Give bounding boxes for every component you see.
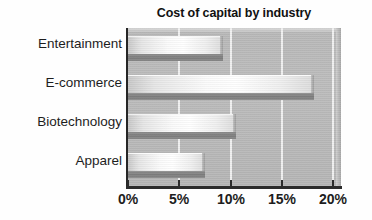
x-tick-15 [281,180,283,187]
bar-apparel [128,153,205,178]
y-axis-line [126,28,128,188]
bar-body [128,36,223,54]
x-tick-label-0: 0% [106,191,150,207]
x-tick-20 [332,180,334,187]
x-tick-5 [178,180,180,187]
bar-body [128,75,314,93]
x-tick-label-5: 5% [157,191,201,207]
gridline-20 [332,28,334,186]
gridline-15 [281,28,283,186]
bar-base [128,54,223,61]
x-axis-line [126,186,342,189]
x-tick-0 [127,180,129,187]
bar-e-commerce [128,75,314,100]
category-label-entertainment: Entertainment [2,36,122,51]
bar-base [128,93,314,100]
bar-entertainment [128,36,223,61]
bar-base [128,132,236,139]
category-label-biotechnology: Biotechnology [2,114,122,129]
plot-top-edge [127,28,341,32]
x-tick-label-10: 10% [209,191,253,207]
gridline-10 [230,28,232,186]
category-label-e-commerce: E-commerce [2,75,122,90]
plot-right-edge [336,28,341,186]
bar-chart-figure: Cost of capital by industry Entertainmen… [0,0,372,220]
plot-area [127,28,341,186]
bar-body [128,114,236,132]
category-label-apparel: Apparel [2,153,122,168]
bar-base [128,171,205,178]
x-tick-10 [230,180,232,187]
x-tick-label-20: 20% [311,191,355,207]
x-tick-label-15: 15% [260,191,304,207]
chart-title: Cost of capital by industry [126,6,342,20]
category-axis-labels: Entertainment E-commerce Biotechnology A… [0,28,122,186]
bar-body [128,153,205,171]
bar-biotechnology [128,114,236,139]
